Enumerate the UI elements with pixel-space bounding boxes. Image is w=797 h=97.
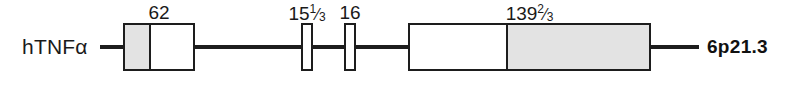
exon-3-segment-white bbox=[346, 25, 354, 69]
exon-4-size-label: 1392⁄3 bbox=[506, 2, 554, 25]
exon-box-1 bbox=[123, 23, 195, 71]
exon-3-size-value: 16 bbox=[339, 2, 360, 23]
gene-structure-diagram: hTNFα 6p21.3 62 151⁄3 16 1392⁄3 bbox=[0, 0, 797, 97]
intron-line-lead bbox=[100, 45, 125, 49]
exon-box-4 bbox=[408, 23, 651, 71]
intron-line-3 bbox=[354, 45, 410, 49]
chromosome-locus-label: 6p21.3 bbox=[707, 36, 768, 58]
exon-2-size-whole: 15 bbox=[288, 3, 309, 24]
exon-4-segment-white bbox=[410, 25, 508, 69]
exon-box-3 bbox=[344, 23, 356, 71]
exon-1-size-label: 62 bbox=[148, 2, 169, 24]
exon-4-size-denominator: 3 bbox=[547, 10, 554, 24]
exon-1-segment-gray bbox=[125, 25, 151, 69]
exon-2-segment-white bbox=[303, 25, 311, 69]
exon-1-size-value: 62 bbox=[148, 2, 169, 23]
exon-2-size-denominator: 3 bbox=[319, 10, 326, 24]
exon-4-segment-gray bbox=[508, 25, 649, 69]
intron-line-2 bbox=[311, 45, 346, 49]
gene-name-label: hTNFα bbox=[22, 35, 88, 59]
exon-2-size-numerator: 1 bbox=[310, 2, 317, 16]
exon-4-size-whole: 139 bbox=[506, 3, 538, 24]
intron-line-1 bbox=[193, 45, 303, 49]
intron-line-trail bbox=[649, 45, 699, 49]
exon-3-size-label: 16 bbox=[339, 2, 360, 24]
exon-1-segment-white bbox=[151, 25, 193, 69]
exon-box-2 bbox=[301, 23, 313, 71]
exon-2-size-label: 151⁄3 bbox=[288, 2, 325, 25]
